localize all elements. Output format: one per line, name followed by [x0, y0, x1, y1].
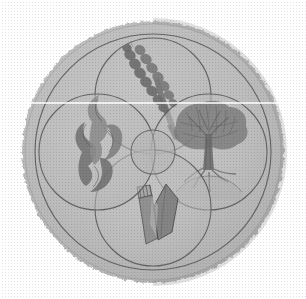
emblem-illustration — [0, 0, 306, 299]
center-roundel — [131, 130, 175, 174]
illustration-canvas: circular four-lobed emblem — [0, 0, 306, 299]
